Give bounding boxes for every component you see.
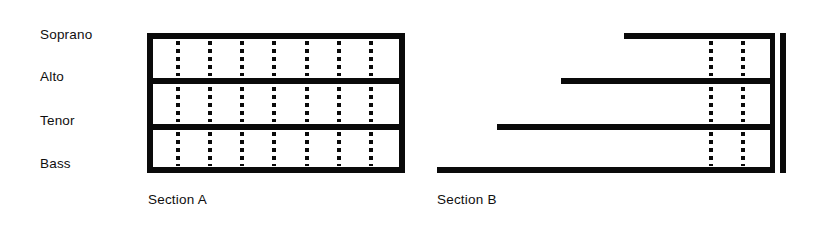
section-a-left-rule xyxy=(147,33,153,173)
section-b-barline-2-row-1 xyxy=(741,41,745,76)
section-a-barline-5-row-3 xyxy=(305,132,309,166)
section-a-barline-3-row-3 xyxy=(240,132,244,166)
section-a-barline-6-row-1 xyxy=(337,41,341,76)
section-a-barline-2-row-2 xyxy=(208,87,212,122)
section-a-barline-4-row-1 xyxy=(272,41,276,76)
section-a-barline-7-row-3 xyxy=(369,132,373,166)
section-b-barline-2-row-3 xyxy=(741,132,745,166)
voice-label-bass: Bass xyxy=(40,157,71,171)
section-a-bottom-rule xyxy=(147,167,405,173)
section-a-barline-1-row-1 xyxy=(176,41,180,76)
figure-title: SATB voice-entry diagram: Section A and … xyxy=(0,0,1,1)
section-b-staff-line-alto xyxy=(561,78,771,84)
section-b-staff-line-bass xyxy=(437,167,771,173)
section-a-barline-1-row-3 xyxy=(176,132,180,166)
section-a-barline-7-row-1 xyxy=(369,41,373,76)
section-b-staff-line-soprano xyxy=(624,33,771,39)
section-a-divider-1 xyxy=(147,78,405,84)
section-a-barline-6-row-2 xyxy=(337,87,341,122)
section-a-barline-3-row-1 xyxy=(240,41,244,76)
section-b-final-barline-thick xyxy=(780,33,786,173)
section-a-barline-4-row-2 xyxy=(272,87,276,122)
section-a-top-rule xyxy=(147,33,405,39)
section-caption-b: Section B xyxy=(437,193,497,207)
section-a-barline-1-row-2 xyxy=(176,87,180,122)
section-caption-a: Section A xyxy=(148,193,207,207)
voice-label-alto: Alto xyxy=(40,70,64,84)
section-a-barline-6-row-3 xyxy=(337,132,341,166)
section-a-barline-2-row-3 xyxy=(208,132,212,166)
section-a-barline-3-row-2 xyxy=(240,87,244,122)
section-a-divider-2 xyxy=(147,124,405,130)
section-a-barline-4-row-3 xyxy=(272,132,276,166)
figure-canvas: Soprano Alto Tenor Bass xyxy=(0,0,824,230)
section-b-barline-1-row-3 xyxy=(709,132,713,166)
section-a-right-rule xyxy=(399,33,405,173)
section-b-final-barline-thin xyxy=(770,33,775,173)
section-b-staff-line-tenor xyxy=(497,124,771,130)
section-a-barline-2-row-1 xyxy=(208,41,212,76)
section-a-barline-7-row-2 xyxy=(369,87,373,122)
voice-label-tenor: Tenor xyxy=(40,114,75,128)
section-b-barline-1-row-1 xyxy=(709,41,713,76)
section-b-barline-1-row-2 xyxy=(709,87,713,122)
section-a-barline-5-row-1 xyxy=(305,41,309,76)
section-a-barline-5-row-2 xyxy=(305,87,309,122)
voice-label-soprano: Soprano xyxy=(40,28,92,42)
section-b-barline-2-row-2 xyxy=(741,87,745,122)
